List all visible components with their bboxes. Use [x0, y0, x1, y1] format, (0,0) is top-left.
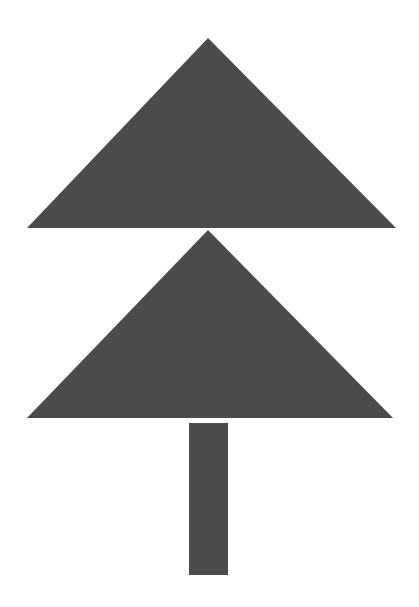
bottom-triangle — [27, 230, 393, 418]
trunk-rectangle — [189, 423, 228, 575]
tree-diagram — [0, 0, 419, 607]
top-triangle — [27, 38, 396, 228]
